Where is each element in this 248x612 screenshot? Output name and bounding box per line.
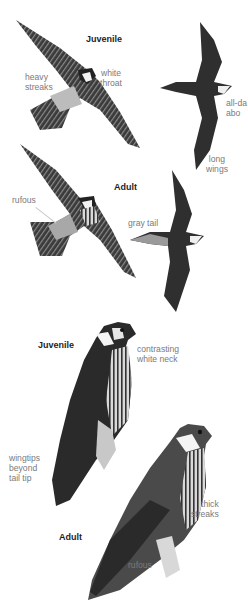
thick-streaks-annotation: thick streaks <box>191 499 219 519</box>
juvenile-perched-heading: Juvenile <box>38 340 74 350</box>
adult-flight-upperside-illustration <box>130 170 204 312</box>
adult-flight-underside-illustration <box>20 144 136 278</box>
juvenile-flight-upperside-illustration <box>160 22 232 170</box>
rufous-flight-annotation: rufous <box>12 195 36 205</box>
contrasting-white-neck-annotation: contrasting white neck <box>137 344 179 364</box>
gray-tail-annotation: gray tail <box>128 218 158 228</box>
rufous-perched-annotation: rufous <box>128 560 152 570</box>
juvenile-flight-heading: Juvenile <box>86 34 122 44</box>
white-throat-annotation: white throat <box>100 68 122 88</box>
wingtips-beyond-tail-tip-annotation: wingtips beyond tail tip <box>9 453 40 483</box>
field-guide-plate: Juvenile heavy streaks white throat all-… <box>0 0 248 612</box>
adult-flight-heading: Adult <box>114 182 137 192</box>
long-wings-annotation: long wings <box>206 154 228 174</box>
adult-perched-heading: Adult <box>59 532 82 542</box>
heavy-streaks-annotation: heavy streaks <box>25 72 53 92</box>
all-dark-above-annotation: all-da abo <box>226 98 247 118</box>
